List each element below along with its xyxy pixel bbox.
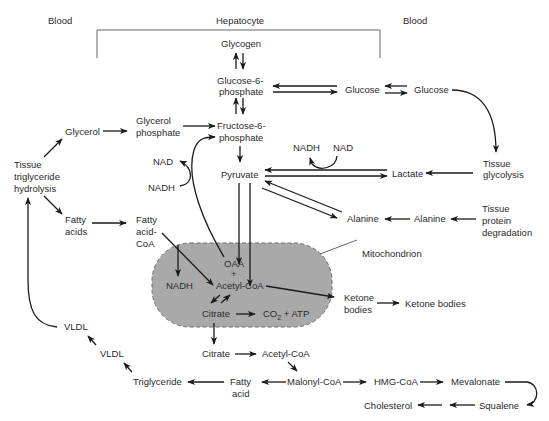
mitochondrion-pointer	[320, 240, 357, 254]
node-citrate-cyto: Citrate	[202, 348, 230, 359]
node-tissue-glycolysis: glycolysis	[483, 169, 524, 180]
node-nad-left: NAD	[153, 156, 173, 167]
hepatocyte-label: Hepatocyte	[216, 15, 264, 26]
node-f6p: phosphate	[219, 132, 263, 143]
node-cholesterol: Cholesterol	[364, 400, 412, 411]
node-ketone-bodies-liver: Ketone	[344, 292, 374, 303]
node-mevalonate: Mevalonate	[451, 376, 500, 387]
node-glycerol-phosphate: Glycerol	[136, 115, 171, 126]
hepatocyte-metabolism-diagram: Blood Hepatocyte Blood Glycogen Glucose-…	[0, 0, 549, 421]
node-fatty-acid-coa: acid-	[136, 226, 157, 237]
node-tg-hydrolysis: hydrolysis	[14, 183, 56, 194]
node-pyruvate: Pyruvate	[221, 169, 259, 180]
node-nadh-mito: NADH	[166, 280, 193, 291]
node-glycerol: Glycerol	[65, 126, 100, 137]
node-tissue-glycolysis: Tissue	[483, 158, 511, 169]
node-glycogen: Glycogen	[221, 38, 261, 49]
node-squalene: Squalene	[479, 400, 519, 411]
node-triglyceride: Triglyceride	[133, 376, 182, 387]
node-vldl-liver: VLDL	[100, 348, 124, 359]
node-hmg-coa: HMG-CoA	[374, 376, 418, 387]
node-citrate-mito: Citrate	[202, 308, 230, 319]
node-tg-hydrolysis: Tissue	[14, 159, 42, 170]
node-ketone-bodies-blood: Ketone bodies	[405, 298, 466, 309]
node-fatty-acid-coa: CoA	[136, 238, 155, 249]
node-alanine-liver: Alanine	[347, 213, 379, 224]
node-tissue-protein: Tissue	[482, 203, 510, 214]
node-g6p: Glucose-6-	[217, 75, 263, 86]
node-glucose-liver: Glucose	[345, 84, 380, 95]
node-f6p: Fructose-6-	[217, 120, 266, 131]
node-nadh-top: NADH	[293, 142, 320, 153]
node-glycerol-phosphate: phosphate	[136, 127, 180, 138]
node-plus: +	[231, 268, 237, 279]
node-tissue-protein: degradation	[482, 227, 532, 238]
node-ketone-bodies-liver: bodies	[344, 304, 372, 315]
node-acetyl-coa-mito: Acetyl-CoA	[216, 280, 264, 291]
node-vldl-blood: VLDL	[64, 321, 88, 332]
node-glucose-blood: Glucose	[414, 84, 449, 95]
blood-left-label: Blood	[48, 15, 72, 26]
node-fatty-acids: acids	[65, 226, 87, 237]
node-fatty-acid: Fatty	[230, 376, 251, 387]
node-nadh-left: NADH	[148, 182, 175, 193]
node-acetyl-coa-cyto: Acetyl-CoA	[262, 348, 310, 359]
node-tg-hydrolysis: triglyceride	[14, 171, 60, 182]
node-malonyl-coa: Malonyl-CoA	[287, 376, 342, 387]
node-fatty-acids: Fatty	[65, 214, 86, 225]
node-fatty-acid-coa: Fatty	[136, 214, 157, 225]
node-fatty-acid: acid	[232, 388, 249, 399]
node-g6p: phosphate	[219, 86, 263, 97]
mitochondrion-label: Mitochondrion	[362, 248, 422, 259]
node-tissue-protein: protein	[482, 215, 511, 226]
node-lactate: Lactate	[392, 168, 423, 179]
node-alanine-blood: Alanine	[414, 213, 446, 224]
blood-right-label: Blood	[403, 15, 427, 26]
node-nad-top: NAD	[333, 142, 353, 153]
